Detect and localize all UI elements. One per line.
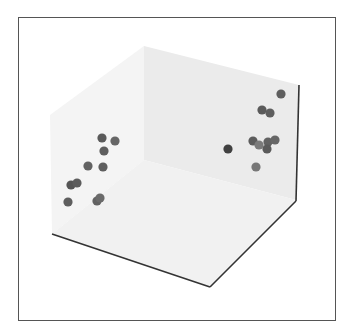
data-point	[270, 135, 279, 144]
data-point	[262, 144, 271, 153]
data-point	[223, 144, 232, 153]
3d-scatter-plot	[0, 0, 355, 335]
data-point	[276, 89, 285, 98]
data-point	[63, 197, 72, 206]
data-point	[265, 108, 274, 117]
data-point	[95, 193, 104, 202]
data-point	[254, 140, 263, 149]
data-point	[72, 178, 81, 187]
data-point	[83, 161, 92, 170]
data-point	[110, 136, 119, 145]
data-point	[251, 162, 260, 171]
data-point	[98, 162, 107, 171]
data-point	[257, 105, 266, 114]
data-point	[99, 146, 108, 155]
data-point	[97, 133, 106, 142]
